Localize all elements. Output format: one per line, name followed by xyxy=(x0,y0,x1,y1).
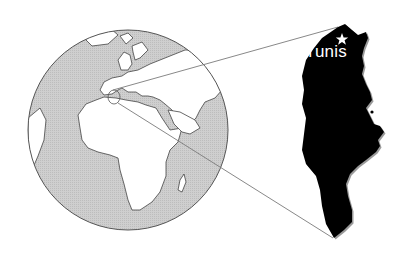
island xyxy=(370,110,373,113)
map-svg xyxy=(0,0,409,259)
map-figure: Tunis xyxy=(0,0,409,259)
island xyxy=(362,128,367,133)
globe xyxy=(28,28,240,230)
capital-label: Tunis xyxy=(305,42,347,62)
